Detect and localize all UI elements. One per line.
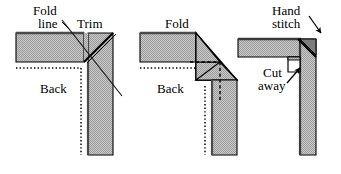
back-label-2: Back	[157, 82, 184, 95]
stitch-label: stitch	[272, 17, 300, 31]
panel3-horizontal-band	[238, 39, 300, 57]
trim-label: Trim	[77, 17, 103, 30]
panel-1-trim	[16, 20, 122, 155]
fold-label-2: Fold	[165, 17, 189, 30]
panel1-horizontal-band	[16, 33, 84, 62]
panel2-horizontal-band	[140, 33, 196, 62]
panel3-hand-stitch-arrow	[309, 16, 321, 33]
panel3-notch-allowance	[288, 57, 300, 60]
panel-2-fold	[140, 33, 237, 155]
panel3-vertical-band	[300, 39, 316, 155]
fold-line-label-row2: line	[38, 17, 58, 31]
mitered-corner-diagram: Fold line Trim Back Fold Back Hand stitc…	[0, 0, 341, 174]
panel2-vertical-band	[212, 80, 237, 155]
panel2-fold-triangle-top	[196, 33, 220, 62]
away-label: away	[258, 79, 285, 93]
panel1-vertical-band	[88, 33, 113, 155]
back-label-1: Back	[40, 82, 67, 95]
panel1-fold-line-leader	[62, 22, 70, 30]
